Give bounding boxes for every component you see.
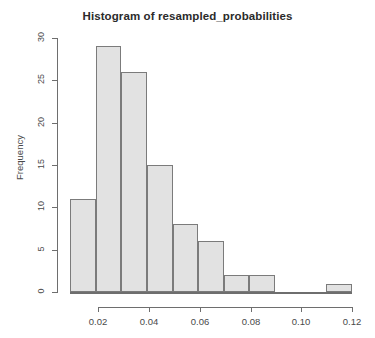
x-tick-label-0.12: 0.12 xyxy=(332,316,372,327)
histogram-bar xyxy=(121,72,147,292)
y-tick-10 xyxy=(52,207,57,208)
y-tick-label-5: 5 xyxy=(36,238,46,260)
y-tick-20 xyxy=(52,123,57,124)
histogram-bar xyxy=(147,165,173,292)
histogram-bar xyxy=(326,284,352,292)
y-tick-label-0: 0 xyxy=(36,280,46,302)
y-tick-label-25: 25 xyxy=(36,68,46,90)
y-axis-label: Frequency xyxy=(14,123,25,193)
histogram-bar xyxy=(224,275,250,292)
y-tick-0 xyxy=(52,292,57,293)
baseline xyxy=(70,292,352,294)
plot-area: Frequency 0 5 10 15 20 25 30 xyxy=(0,0,375,338)
y-tick-label-30: 30 xyxy=(36,26,46,48)
histogram-bar xyxy=(96,46,122,292)
x-tick-label-0.10: 0.10 xyxy=(281,316,321,327)
y-tick-30 xyxy=(52,38,57,39)
y-tick-label-15: 15 xyxy=(36,153,46,175)
histogram-bar xyxy=(198,241,224,292)
x-axis-line xyxy=(98,307,352,308)
y-tick-25 xyxy=(52,80,57,81)
histogram-bar xyxy=(173,224,199,292)
y-axis-line xyxy=(57,38,58,293)
x-tick-0.06 xyxy=(200,307,201,312)
x-tick-0.08 xyxy=(251,307,252,312)
y-tick-15 xyxy=(52,165,57,166)
x-tick-0.04 xyxy=(149,307,150,312)
x-tick-0.12 xyxy=(352,307,353,312)
histogram-chart: Histogram of resampled_probabilities Fre… xyxy=(0,0,375,338)
histogram-bar xyxy=(70,199,96,292)
histogram-bar xyxy=(249,275,275,292)
y-tick-label-20: 20 xyxy=(36,111,46,133)
y-tick-label-10: 10 xyxy=(36,195,46,217)
x-tick-label-0.08: 0.08 xyxy=(231,316,271,327)
x-tick-0.10 xyxy=(301,307,302,312)
x-tick-label-0.02: 0.02 xyxy=(78,316,118,327)
x-tick-label-0.04: 0.04 xyxy=(129,316,169,327)
x-tick-label-0.06: 0.06 xyxy=(180,316,220,327)
y-tick-5 xyxy=(52,250,57,251)
x-tick-0.02 xyxy=(98,307,99,312)
